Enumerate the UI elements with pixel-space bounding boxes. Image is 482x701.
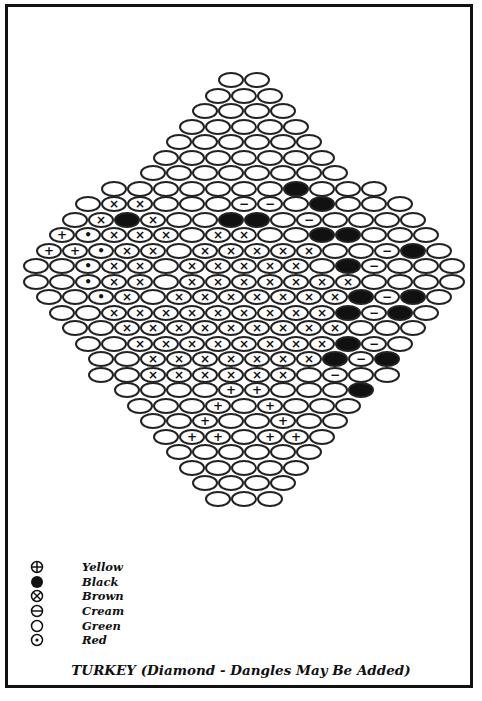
bead-mark: × xyxy=(226,291,236,303)
green-bead xyxy=(153,181,179,197)
green-bead xyxy=(218,413,244,429)
legend-item-yellow: Yellow xyxy=(30,560,124,575)
bead-mark: × xyxy=(252,245,262,257)
green-bead xyxy=(257,181,283,197)
brown-bead: × xyxy=(166,351,192,367)
green-bead xyxy=(75,196,101,212)
green-bead xyxy=(205,88,231,104)
pattern-title: TURKEY (Diamond - Dangles May Be Added) xyxy=(0,662,482,678)
red-bead: • xyxy=(88,243,114,259)
bead-mark: × xyxy=(174,369,184,381)
green-bead xyxy=(270,444,296,460)
brown-bead: × xyxy=(270,367,296,383)
bead-mark: − xyxy=(369,338,379,350)
bead-mark: × xyxy=(148,369,158,381)
bead-mark: × xyxy=(291,276,301,288)
brown-bead: × xyxy=(205,305,231,321)
bead-mark: + xyxy=(278,415,288,427)
green-bead xyxy=(400,212,426,228)
bead-mark: × xyxy=(122,291,132,303)
bead-mark: + xyxy=(200,415,210,427)
green-bead xyxy=(270,382,296,398)
cream-bead: − xyxy=(322,367,348,383)
brown-bead: × xyxy=(127,227,153,243)
green-bead xyxy=(244,444,270,460)
brown-bead: × xyxy=(192,320,218,336)
brown-bead: × xyxy=(244,367,270,383)
brown-bead: × xyxy=(101,274,127,290)
green-bead xyxy=(244,165,270,181)
green-bead xyxy=(348,212,374,228)
brown-bead: × xyxy=(283,274,309,290)
green-bead xyxy=(153,258,179,274)
bead-mark: × xyxy=(187,338,197,350)
green-bead xyxy=(49,274,75,290)
bead-mark: × xyxy=(200,353,210,365)
cream-bead: − xyxy=(361,258,387,274)
legend-label: Green xyxy=(82,619,121,633)
bead-mark: × xyxy=(252,369,262,381)
bead-mark: • xyxy=(84,229,92,241)
green-bead xyxy=(413,227,439,243)
green-bead xyxy=(205,119,231,135)
green-bead xyxy=(257,227,283,243)
bead-mark: • xyxy=(97,291,105,303)
brown-bead: × xyxy=(127,274,153,290)
green-bead xyxy=(257,460,283,476)
cream-bead: − xyxy=(231,196,257,212)
bead-mark: × xyxy=(317,338,327,350)
yellow-bead: + xyxy=(192,413,218,429)
green-bead xyxy=(62,212,88,228)
bead-mark: × xyxy=(304,291,314,303)
green-bead xyxy=(439,258,465,274)
yellow-bead: + xyxy=(205,429,231,445)
green-bead xyxy=(192,103,218,119)
bead-mark: − xyxy=(369,260,379,272)
cream-bead: − xyxy=(361,305,387,321)
green-bead xyxy=(335,398,361,414)
brown-bead: × xyxy=(283,258,309,274)
bead-mark: × xyxy=(200,291,210,303)
brown-bead: × xyxy=(166,320,192,336)
bead-mark: × xyxy=(291,260,301,272)
circle-cross-icon xyxy=(30,589,44,603)
green-bead xyxy=(387,196,413,212)
green-bead xyxy=(244,103,270,119)
brown-bead: × xyxy=(205,258,231,274)
green-bead xyxy=(218,103,244,119)
bead-mark: × xyxy=(135,229,145,241)
bead-mark: + xyxy=(252,384,262,396)
bead-mark: × xyxy=(252,322,262,334)
yellow-bead: + xyxy=(218,382,244,398)
brown-bead: × xyxy=(179,274,205,290)
bead-mark: + xyxy=(213,400,223,412)
green-bead xyxy=(179,119,205,135)
bead-mark: − xyxy=(265,198,275,210)
brown-bead: × xyxy=(205,274,231,290)
green-bead xyxy=(322,413,348,429)
green-bead xyxy=(179,150,205,166)
red-bead: • xyxy=(75,227,101,243)
green-bead xyxy=(192,382,218,398)
green-bead xyxy=(62,320,88,336)
green-bead xyxy=(153,429,179,445)
green-bead xyxy=(23,258,49,274)
bead-mark: + xyxy=(44,245,54,257)
green-bead xyxy=(62,289,88,305)
bead-mark: × xyxy=(213,229,223,241)
brown-bead: × xyxy=(192,289,218,305)
brown-bead: × xyxy=(244,320,270,336)
green-bead xyxy=(205,491,231,507)
bead-mark: × xyxy=(174,291,184,303)
bead-mark: × xyxy=(187,276,197,288)
green-bead xyxy=(413,258,439,274)
green-bead xyxy=(426,243,452,259)
bead-mark: × xyxy=(278,353,288,365)
green-bead xyxy=(218,444,244,460)
brown-bead: × xyxy=(127,258,153,274)
brown-bead: × xyxy=(179,336,205,352)
bead-mark: × xyxy=(265,276,275,288)
green-bead xyxy=(231,181,257,197)
green-bead xyxy=(309,429,335,445)
green-bead xyxy=(387,336,413,352)
